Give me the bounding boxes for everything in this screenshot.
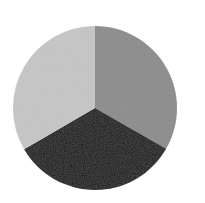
pie-chart <box>0 0 205 203</box>
pie-slices <box>13 26 177 190</box>
